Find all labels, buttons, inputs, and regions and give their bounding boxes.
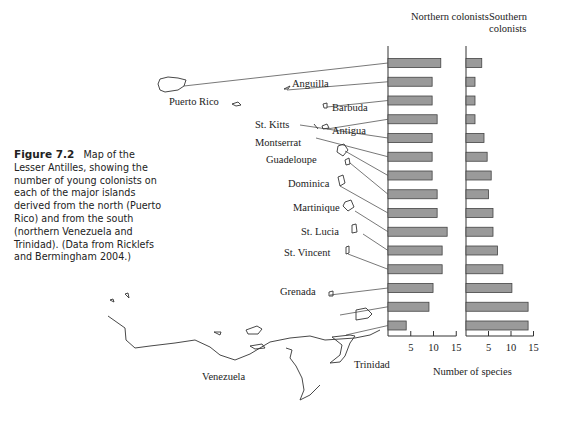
- label-guadeloupe: Guadeloupe: [266, 154, 317, 165]
- coastline: [322, 124, 329, 129]
- bar: [466, 171, 491, 180]
- coastline: [108, 316, 380, 360]
- bar: [388, 171, 432, 180]
- label-dominica: Dominica: [288, 178, 329, 189]
- bar: [388, 321, 406, 330]
- coastline: [214, 332, 221, 335]
- bar: [466, 227, 493, 236]
- label-anguilla: Anguilla: [292, 78, 329, 89]
- label-trinidad: Trinidad: [354, 359, 390, 370]
- bar: [388, 302, 429, 311]
- label-puerto-rico: Puerto Rico: [169, 96, 219, 107]
- leader-line: [330, 288, 388, 295]
- figure-caption: Figure 7.2 Map of the Lesser Antilles, s…: [14, 148, 164, 264]
- label-venezuela: Venezuela: [202, 371, 245, 382]
- coastline: [352, 224, 357, 233]
- x-axis-label: Number of species: [433, 366, 512, 377]
- coastline: [246, 326, 262, 334]
- coastline: [314, 124, 318, 129]
- bar: [466, 152, 487, 161]
- southern-panel-title: Southern colonists: [489, 11, 549, 35]
- bar: [388, 77, 432, 86]
- northern-panel-title: Northern colonists: [411, 11, 471, 23]
- bar: [466, 96, 475, 105]
- leader-line: [355, 211, 388, 232]
- bar: [388, 152, 432, 161]
- leader-line: [363, 234, 388, 251]
- bar: [466, 59, 482, 68]
- bar: [388, 115, 437, 124]
- coastline: [346, 246, 349, 254]
- label-st-vincent: St. Vincent: [284, 247, 330, 258]
- x-tick-label: 10: [428, 342, 439, 353]
- leader-line: [350, 163, 388, 194]
- coastline: [343, 200, 354, 211]
- coastline: [110, 299, 114, 302]
- label-st-lucia: St. Lucia: [301, 226, 339, 237]
- bar: [466, 265, 503, 274]
- bar: [466, 284, 512, 293]
- bar: [466, 302, 528, 311]
- x-tick-label: 5: [486, 342, 491, 353]
- bar: [466, 115, 475, 124]
- bar: [388, 209, 437, 218]
- leader-line: [346, 326, 388, 336]
- coastline: [323, 103, 327, 108]
- coastline: [158, 77, 186, 92]
- bar: [388, 284, 433, 293]
- x-tick-label: 15: [528, 342, 539, 353]
- bar: [388, 190, 437, 199]
- bar: [388, 59, 441, 68]
- bar: [388, 246, 442, 255]
- bar: [388, 134, 432, 143]
- x-tick-label: 10: [506, 342, 517, 353]
- figure-number: Figure 7.2: [14, 148, 74, 160]
- bar: [466, 246, 498, 255]
- coastline: [338, 175, 345, 186]
- bar: [466, 321, 528, 330]
- bar: [466, 134, 484, 143]
- x-tick-label: 5: [408, 342, 413, 353]
- label-antigua: Antigua: [332, 125, 366, 136]
- label-barbuda: Barbuda: [332, 102, 368, 113]
- leader-line: [316, 138, 388, 157]
- label-montserrat: Montserrat: [255, 137, 301, 148]
- bar: [388, 96, 432, 105]
- leader-line: [340, 186, 388, 213]
- coastline: [286, 348, 320, 400]
- coastline: [284, 86, 290, 89]
- leader-line: [184, 63, 388, 86]
- x-tick-label: 15: [451, 342, 462, 353]
- bar: [388, 265, 442, 274]
- label-martinique: Martinique: [293, 202, 340, 213]
- leader-line: [348, 254, 388, 269]
- coastline: [125, 293, 129, 298]
- coastline: [232, 102, 241, 106]
- coastline: [345, 158, 350, 165]
- bar: [466, 209, 493, 218]
- bar: [466, 190, 489, 199]
- bar: [466, 77, 475, 86]
- label-grenada: Grenada: [280, 286, 316, 297]
- bar: [388, 227, 447, 236]
- label-st-kitts: St. Kitts: [255, 119, 289, 130]
- caption-text: Map of the Lesser Antilles, showing the …: [14, 149, 161, 262]
